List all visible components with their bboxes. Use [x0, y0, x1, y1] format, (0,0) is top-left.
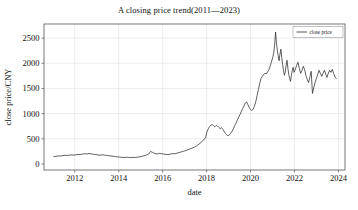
x-tick-label: 2024	[330, 173, 348, 183]
figure-canvas: A closing price trend(2011—2023) 2012201…	[0, 0, 358, 210]
legend-label-close-price: close price	[310, 29, 333, 35]
y-tick-label: 2500	[23, 33, 40, 43]
grid-lines	[44, 24, 345, 170]
y-tick-label: 500	[27, 134, 40, 144]
x-axis-title: date	[187, 187, 201, 197]
x-tick-label: 2020	[242, 173, 259, 183]
x-tick-label: 2022	[286, 173, 303, 183]
y-axis-tick-labels: 05001000150020002500	[23, 33, 40, 169]
x-tick-label: 2012	[66, 173, 83, 183]
y-axis-title: close price/CNY	[3, 69, 13, 126]
x-axis-tick-labels: 2012201420162018202020222024	[66, 173, 347, 183]
y-tick-label: 1500	[23, 83, 40, 93]
plot-frame	[44, 24, 345, 170]
x-tick-label: 2014	[110, 173, 128, 183]
chart-legend[interactable]: close price	[293, 27, 343, 38]
y-tick-label: 2000	[23, 58, 40, 68]
y-tick-label: 0	[35, 159, 39, 169]
y-tick-label: 1000	[23, 109, 40, 119]
x-tick-label: 2016	[154, 173, 171, 183]
chart-plot: 2012201420162018202020222024 05001000150…	[0, 0, 358, 210]
x-tick-label: 2018	[198, 173, 215, 183]
